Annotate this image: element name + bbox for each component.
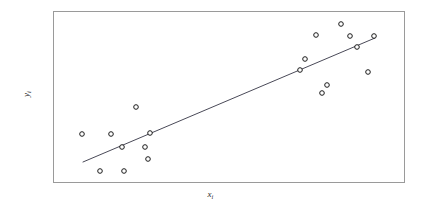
data-point [120,145,125,150]
data-point [355,45,360,50]
x-axis-label: xi [0,190,421,201]
y-axis-subscript: i [25,91,32,93]
data-point [122,169,127,174]
data-point [98,169,103,174]
data-point [134,105,139,110]
y-axis-variable: y [21,93,31,97]
x-axis-subscript: i [212,193,214,200]
data-point [80,132,85,137]
data-point [372,34,377,39]
scatter-plot-figure: yi xi [0,0,421,213]
data-point [348,34,353,39]
data-point [314,33,319,38]
data-point [325,83,330,88]
data-point [109,132,114,137]
data-point [143,145,148,150]
data-point [320,91,325,96]
data-point [339,22,344,27]
data-point [298,68,303,73]
data-point [146,157,151,162]
data-point [366,70,371,75]
plot-canvas [0,0,421,213]
data-point [148,131,153,136]
y-axis-label: yi [18,84,36,104]
data-point [303,57,308,62]
